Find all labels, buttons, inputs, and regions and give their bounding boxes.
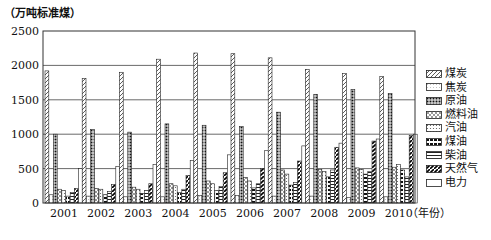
bar (401, 170, 405, 203)
bar (289, 185, 293, 203)
bar (99, 189, 103, 203)
legend-label: 煤油 (445, 135, 467, 149)
bar (372, 141, 376, 203)
bar (136, 189, 140, 203)
bar (149, 184, 153, 203)
bar (173, 186, 177, 203)
legend-label: 汽油 (445, 121, 467, 135)
bar (53, 134, 57, 203)
legend-swatch-icon (426, 124, 442, 132)
bar (165, 124, 169, 203)
legend: 煤炭焦炭原油燃料油汽油煤油柴油天然气电力 (426, 67, 478, 189)
bar (182, 189, 186, 203)
x-tick-label: 2003 (124, 207, 152, 220)
bar (239, 127, 243, 203)
x-tick-label: 2001 (50, 207, 78, 220)
bar (331, 170, 335, 203)
legend-swatch-icon (426, 179, 442, 187)
legend-item: 煤炭 (426, 67, 478, 81)
y-tick-label: 1000 (11, 128, 39, 141)
bar (186, 175, 190, 203)
legend-item: 原油 (426, 94, 478, 108)
bar (260, 169, 264, 203)
bar (359, 169, 363, 203)
bar (103, 195, 107, 203)
legend-label: 煤炭 (445, 67, 467, 81)
x-tick-label: 2007 (273, 207, 301, 220)
bar (45, 71, 49, 203)
bar (178, 193, 182, 203)
bar (198, 195, 202, 203)
legend-swatch-icon (426, 138, 442, 146)
bar (227, 155, 231, 203)
bar (211, 184, 215, 203)
bar (119, 72, 123, 203)
bar (58, 189, 62, 203)
bar (161, 197, 165, 203)
bar (351, 89, 355, 203)
bar (388, 94, 392, 203)
x-tick-label: 2004 (162, 207, 190, 220)
bar (380, 76, 384, 203)
bar (268, 58, 272, 203)
y-tick-label: 0 (32, 197, 39, 210)
bar (49, 195, 53, 203)
bar (409, 136, 413, 203)
bar (82, 78, 86, 203)
bar (244, 178, 248, 203)
legend-swatch-icon (426, 97, 442, 105)
bar (157, 59, 161, 203)
bar (397, 164, 401, 203)
y-tick-label: 500 (18, 163, 39, 176)
bar (132, 187, 136, 203)
legend-item: 煤油 (426, 135, 478, 149)
bar (153, 164, 157, 203)
legend-label: 柴油 (445, 149, 467, 163)
y-tick-label: 2500 (11, 25, 39, 38)
x-tick-label: 2009 (348, 207, 376, 220)
bar (281, 170, 285, 203)
legend-label: 天然气 (445, 162, 478, 176)
bar (293, 182, 297, 203)
bar (322, 171, 326, 203)
bar (62, 191, 66, 203)
bar (169, 184, 173, 203)
bar (277, 112, 281, 203)
bar (112, 184, 116, 203)
x-tick-label: 2002 (87, 207, 115, 220)
bar (202, 125, 206, 203)
bar (79, 169, 83, 203)
legend-label: 燃料油 (445, 108, 478, 122)
bar (128, 132, 132, 203)
bar (252, 188, 256, 203)
bar (235, 195, 239, 203)
bar (86, 196, 90, 203)
bar (384, 197, 388, 203)
legend-item: 电力 (426, 176, 478, 190)
bar (368, 171, 372, 203)
bar (265, 151, 269, 203)
legend-swatch-icon (426, 111, 442, 119)
bar (95, 189, 99, 203)
bar (215, 191, 219, 203)
bar (314, 94, 318, 203)
bar (302, 146, 306, 203)
bar (335, 147, 339, 203)
legend-swatch-icon (426, 165, 442, 173)
legend-item: 汽油 (426, 121, 478, 135)
bar (107, 191, 111, 203)
bar (310, 196, 314, 203)
x-tick-label: 2008 (310, 207, 338, 220)
legend-label: 焦炭 (445, 81, 467, 95)
bar (343, 74, 347, 203)
bar (405, 177, 409, 203)
bar (116, 167, 120, 203)
bars (45, 53, 417, 203)
legend-swatch-icon (426, 83, 442, 91)
bar (124, 197, 128, 203)
bar (91, 129, 95, 203)
y-tick-label: 1500 (11, 94, 39, 107)
bar (190, 160, 194, 203)
x-tick-label: 2005 (199, 207, 227, 220)
bar (206, 181, 210, 203)
